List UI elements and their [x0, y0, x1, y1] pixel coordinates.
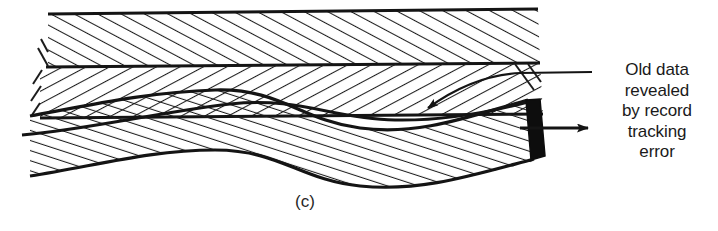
annotation-label: Old data revealed by record tracking err… — [596, 60, 718, 163]
upper-band-ragged-left — [38, 39, 48, 66]
figure-canvas: Old data revealed by record tracking err… — [0, 0, 718, 231]
figure-caption: (c) — [0, 192, 610, 212]
